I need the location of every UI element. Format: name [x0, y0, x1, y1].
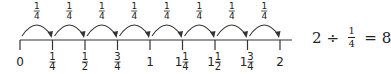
dividend: 2	[312, 29, 322, 47]
svg-text:1: 1	[66, 1, 72, 11]
svg-text:4: 4	[131, 11, 137, 21]
svg-text:1: 1	[261, 1, 267, 11]
tick-6: 112	[207, 40, 221, 72]
svg-text:4: 4	[66, 11, 72, 21]
divisor-fraction: 1 4	[348, 26, 355, 49]
svg-text:1: 1	[240, 55, 248, 69]
tick-4: 1	[146, 40, 154, 69]
svg-text:2: 2	[82, 61, 88, 72]
division-equation: 2 ÷ 1 4 = 8	[312, 26, 391, 49]
jump-arc-6: 14	[217, 1, 248, 38]
svg-text:4: 4	[196, 11, 202, 21]
result: 8	[382, 29, 391, 47]
svg-text:1: 1	[131, 1, 137, 11]
jump-arc-2: 14	[87, 1, 118, 38]
svg-text:1: 1	[99, 1, 105, 11]
jump-arc-1: 14	[55, 1, 86, 38]
svg-text:0: 0	[16, 55, 24, 69]
tick-3: 34	[114, 40, 120, 72]
svg-text:2: 2	[215, 61, 221, 72]
svg-text:1: 1	[196, 1, 202, 11]
svg-text:1: 1	[146, 55, 154, 69]
svg-text:4: 4	[229, 11, 235, 21]
tick-8: 2	[276, 40, 284, 69]
svg-text:4: 4	[182, 61, 188, 72]
svg-text:4: 4	[114, 61, 120, 72]
jump-arc-3: 14	[120, 1, 151, 38]
svg-text:2: 2	[276, 55, 284, 69]
svg-text:4: 4	[247, 61, 253, 72]
jump-arc-5: 14	[185, 1, 216, 38]
jump-arc-4: 14	[152, 1, 183, 38]
jump-arc-7: 14	[250, 1, 281, 38]
svg-text:4: 4	[49, 61, 55, 72]
tick-1: 14	[49, 40, 55, 72]
svg-text:1: 1	[229, 1, 235, 11]
tick-7: 134	[240, 40, 254, 72]
tick-2: 12	[82, 40, 88, 72]
svg-text:1: 1	[175, 55, 183, 69]
divide-operator: ÷	[327, 29, 340, 47]
tick-0: 0	[16, 40, 24, 69]
svg-text:4: 4	[261, 11, 267, 21]
jump-arc-0: 14	[22, 1, 53, 38]
svg-text:1: 1	[34, 1, 40, 11]
svg-text:1: 1	[164, 1, 170, 11]
tick-5: 114	[175, 40, 189, 72]
svg-text:1: 1	[207, 55, 215, 69]
svg-text:4: 4	[99, 11, 105, 21]
svg-text:4: 4	[34, 11, 40, 21]
svg-text:4: 4	[164, 11, 170, 21]
equals-sign: =	[364, 29, 377, 47]
number-line: 0141234111411213421414141414141414	[0, 0, 300, 74]
